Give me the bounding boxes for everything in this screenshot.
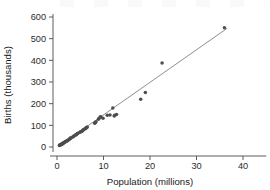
y-tick-label: 600 bbox=[31, 12, 46, 22]
data-point bbox=[94, 120, 98, 124]
data-point bbox=[108, 113, 112, 117]
y-tick-label: 0 bbox=[41, 142, 46, 152]
y-tick-label: 200 bbox=[31, 99, 46, 109]
data-point bbox=[223, 26, 227, 30]
data-point bbox=[101, 116, 105, 120]
x-tick-label: 30 bbox=[191, 161, 201, 171]
data-point bbox=[111, 106, 115, 110]
scatter-plot: 0100200300400500600 010203040 Population… bbox=[0, 0, 270, 190]
x-axis-title: Population (millions) bbox=[107, 176, 193, 187]
y-axis-title: Births (thousands) bbox=[2, 46, 13, 124]
x-tick-label: 20 bbox=[145, 161, 155, 171]
chart-container: 0100200300400500600 010203040 Population… bbox=[0, 0, 270, 190]
data-points bbox=[58, 26, 227, 147]
y-tick-label: 300 bbox=[31, 77, 46, 87]
y-tick-label: 400 bbox=[31, 56, 46, 66]
data-point bbox=[139, 98, 143, 102]
y-axis: 0100200300400500600 bbox=[31, 12, 53, 152]
data-point bbox=[115, 113, 119, 117]
x-tick-label: 10 bbox=[98, 161, 108, 171]
x-tick-label: 40 bbox=[238, 161, 248, 171]
data-point bbox=[85, 125, 89, 129]
y-tick-label: 100 bbox=[31, 121, 46, 131]
data-point bbox=[160, 61, 164, 65]
data-point bbox=[144, 91, 148, 95]
x-tick-label: 0 bbox=[54, 161, 59, 171]
x-axis: 010203040 bbox=[50, 156, 266, 171]
y-tick-label: 500 bbox=[31, 34, 46, 44]
